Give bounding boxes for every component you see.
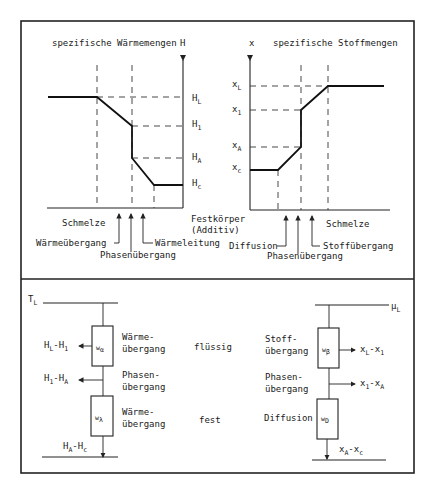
mass-level-xl: xL bbox=[232, 79, 241, 92]
mass-out-3: xA-xc bbox=[339, 444, 363, 457]
heat-desc-3b: übergang bbox=[122, 419, 165, 429]
heat-desc-1a: Wärme- bbox=[122, 332, 155, 342]
label-heat-transfer: Wärmeübergang bbox=[36, 238, 106, 248]
mass-desc-3a: Diffusion bbox=[264, 413, 313, 423]
arrow-heat-conduction bbox=[143, 214, 153, 243]
heat-desc-2a: Phasen- bbox=[122, 370, 160, 380]
heat-zone-melt: Schmelze bbox=[62, 218, 105, 228]
mass-desc-2a: Phasen- bbox=[265, 372, 303, 382]
heat-top-label: TL bbox=[28, 294, 37, 307]
label-heat-conduction: Wärmeleitung bbox=[155, 238, 220, 248]
phase-liquid-label: flüssig bbox=[194, 342, 232, 352]
heat-desc-1b: übergang bbox=[122, 344, 165, 354]
mass-desc-1a: Stoff- bbox=[265, 334, 298, 344]
heat-level-hl: HL bbox=[192, 93, 201, 106]
mass-top-label: μL bbox=[391, 301, 400, 314]
mass-circuit: μL wβ wD xL-x1 x1-xA xA-xc Stoff- überga… bbox=[264, 301, 400, 460]
heat-level-hc: Hc bbox=[192, 178, 201, 191]
mass-desc-2b: übergang bbox=[265, 384, 308, 394]
mass-level-xc: xc bbox=[232, 162, 241, 175]
heat-axis-label: H bbox=[180, 38, 185, 48]
solid-zone-label-1: Festkörper bbox=[191, 214, 246, 224]
mass-out-1: xL-x1 bbox=[360, 344, 384, 357]
label-diffusion: Diffusion bbox=[229, 241, 278, 251]
heat-level-h1: H1 bbox=[192, 119, 201, 132]
mass-chart: x spezifische Stoffmengen xL x1 xA xc Sc… bbox=[229, 38, 398, 261]
solid-zone-label-2: (Additiv) bbox=[191, 225, 240, 235]
mass-level-xa: xA bbox=[232, 140, 241, 153]
label-heat-phase: Phasenübergang bbox=[100, 250, 176, 260]
heat-out-3: HA-Hc bbox=[63, 441, 87, 454]
mass-zone-melt: Schmelze bbox=[326, 219, 369, 229]
heat-chart: spezifische Wärmemengen H HL H1 HA Hc Sc… bbox=[36, 38, 246, 260]
heat-out-2: H1-HA bbox=[44, 373, 68, 386]
heat-desc-2b: übergang bbox=[122, 382, 165, 392]
heat-chart-title: spezifische Wärmemengen bbox=[52, 38, 177, 48]
mass-level-x1: x1 bbox=[232, 104, 241, 117]
label-mass-transfer: Stoffübergang bbox=[323, 241, 393, 251]
heat-circuit: TL wα wλ HL-H1 H1-HA HA-Hc Wärme- überga… bbox=[28, 294, 165, 457]
arrow-heat-transfer bbox=[114, 214, 119, 243]
mass-profile-curve bbox=[250, 86, 384, 170]
mass-axis-label: x bbox=[249, 38, 255, 48]
arrow-diffusion bbox=[277, 216, 286, 246]
mass-desc-1b: übergang bbox=[265, 346, 308, 356]
phase-solid-label: fest bbox=[199, 415, 221, 425]
mass-chart-title: spezifische Stoffmengen bbox=[273, 38, 398, 48]
heat-level-ha: HA bbox=[192, 152, 201, 165]
heat-profile-curve bbox=[48, 97, 183, 185]
heat-out-1: HL-H1 bbox=[44, 340, 68, 353]
heat-desc-3a: Wärme- bbox=[122, 407, 155, 417]
arrow-mass-transfer bbox=[312, 216, 320, 246]
label-mass-phase: Phasenübergang bbox=[267, 251, 343, 261]
mass-out-2: x1-xA bbox=[360, 378, 384, 391]
diagram-canvas: spezifische Wärmemengen H HL H1 HA Hc Sc… bbox=[0, 0, 431, 496]
